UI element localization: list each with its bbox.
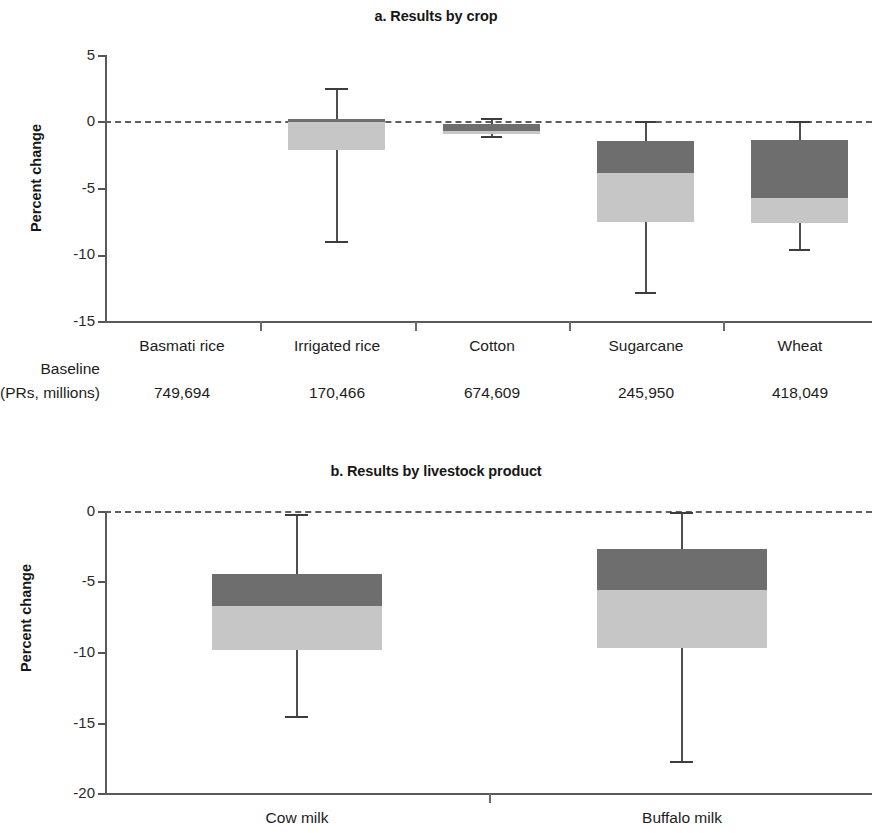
boxplot-figure: a. Results by crop Percent change 5 0 -5… [0, 0, 872, 833]
baseline-value-basmati-rice: 749,694 [107, 384, 257, 402]
whisker-cap-low-sugarcane [635, 292, 656, 294]
whisker-cap-high-buffalo-milk [670, 512, 693, 514]
panel-a-ytick-neg5: -5 [40, 179, 95, 196]
panel-a-category-label-basmati-rice: Basmati rice [107, 337, 257, 355]
panel-a-category-separator [723, 321, 725, 331]
box-upper-wheat [751, 140, 848, 198]
whisker-cap-low-cotton [481, 136, 502, 138]
whisker-irrigated-rice [336, 89, 338, 242]
panel-b-ytick-neg20: -20 [33, 784, 95, 801]
box-lower-cow-milk [212, 606, 382, 650]
panel-a-category-separator [569, 321, 571, 331]
panel-b-category-separator [489, 793, 491, 803]
whisker-cap-low-cow-milk [285, 716, 308, 718]
panel-results-by-livestock-product: b. Results by livestock product Percent … [0, 430, 872, 833]
panel-b-ytick-0: 0 [40, 502, 95, 519]
box-lower-cotton [443, 131, 540, 134]
panel-b-title: b. Results by livestock product [0, 463, 872, 479]
whisker-cap-high-wheat [789, 121, 810, 123]
whisker-cap-low-buffalo-milk [670, 761, 693, 763]
panel-a-category-separator [260, 321, 262, 331]
box-lower-buffalo-milk [597, 590, 767, 648]
box-upper-cow-milk [212, 574, 382, 606]
panel-a-category-label-wheat: Wheat [725, 337, 872, 355]
whisker-cap-high-cow-milk [285, 514, 308, 516]
box-upper-sugarcane [597, 141, 694, 173]
box-upper-cotton [443, 124, 540, 131]
box-upper-buffalo-milk [597, 549, 767, 590]
whisker-cap-low-irrigated-rice [325, 241, 348, 243]
baseline-value-irrigated-rice: 170,466 [262, 384, 412, 402]
baseline-value-sugarcane: 245,950 [571, 384, 721, 402]
whisker-cap-high-irrigated-rice [325, 88, 348, 90]
panel-a-category-label-irrigated-rice: Irrigated rice [262, 337, 412, 355]
baseline-header-line2: (PRs, millions) [0, 384, 100, 402]
panel-a-category-label-sugarcane: Sugarcane [571, 337, 721, 355]
panel-b-y-axis [105, 511, 107, 795]
box-lower-wheat [751, 198, 848, 223]
panel-a-x-axis [105, 321, 872, 323]
whisker-cap-high-cotton [481, 118, 502, 120]
panel-b-ytick-neg5: -5 [40, 572, 95, 589]
baseline-value-cotton: 674,609 [417, 384, 567, 402]
panel-a-title: a. Results by crop [0, 8, 872, 24]
panel-b-zero-reference-line [105, 511, 872, 513]
baseline-header-line1: Baseline [0, 360, 100, 378]
panel-a-category-label-cotton: Cotton [417, 337, 567, 355]
panel-b-ytick-neg15: -15 [33, 714, 95, 731]
panel-b-y-axis-label: Percent change [18, 538, 34, 698]
whisker-cap-low-wheat [789, 249, 810, 251]
whisker-cap-high-sugarcane [635, 121, 656, 123]
panel-a-zero-reference-line [105, 121, 872, 123]
panel-a-ytick-neg15: -15 [33, 312, 95, 329]
panel-b-category-label-cow-milk: Cow milk [222, 809, 372, 827]
panel-b-category-label-buffalo-milk: Buffalo milk [607, 809, 757, 827]
panel-a-ytick-neg10: -10 [33, 245, 95, 262]
panel-a-ytick-5: 5 [40, 46, 95, 63]
panel-b-ytick-neg10: -10 [33, 643, 95, 660]
panel-results-by-crop: a. Results by crop Percent change 5 0 -5… [0, 0, 872, 430]
box-lower-sugarcane [597, 173, 694, 222]
panel-a-y-axis [105, 55, 107, 323]
panel-a-category-separator [415, 321, 417, 331]
baseline-value-wheat: 418,049 [725, 384, 872, 402]
panel-a-ytick-0: 0 [40, 112, 95, 129]
box-lower-irrigated-rice [288, 122, 385, 150]
